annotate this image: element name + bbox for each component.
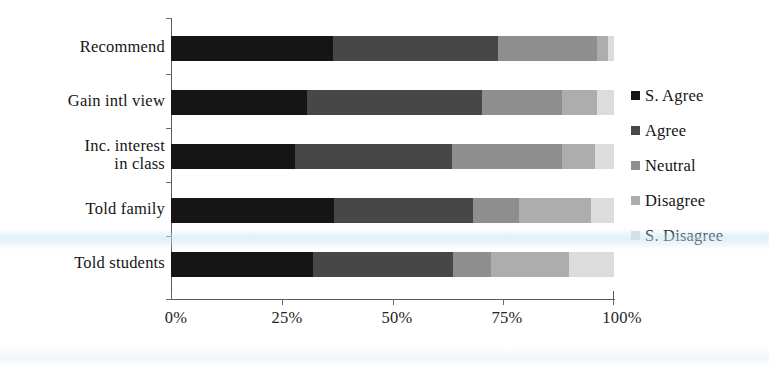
legend-label: S. Disagree xyxy=(645,226,723,246)
x-tick-label-100: 100% xyxy=(602,308,641,328)
legend-label: Agree xyxy=(645,121,686,141)
bar-segment xyxy=(473,198,520,223)
bar-segment xyxy=(569,252,614,277)
x-tick-label-0: 0% xyxy=(165,308,187,328)
legend-swatch-icon xyxy=(631,196,640,205)
x-tick-label-25: 25% xyxy=(272,308,303,328)
legend-item-neutral: Neutral xyxy=(631,148,723,183)
legend-item-agree: Agree xyxy=(631,113,723,148)
bar-told-family xyxy=(171,198,614,223)
category-label-gain-intl-view: Gain intl view xyxy=(68,92,165,110)
bar-segment xyxy=(491,252,569,277)
legend-swatch-icon xyxy=(631,126,640,135)
stacked-bar-chart: Recommend Gain intl view Inc. interest i… xyxy=(0,0,769,367)
bar-segment xyxy=(498,36,597,61)
bar-segment xyxy=(519,198,591,223)
bar-told-students xyxy=(171,252,614,277)
bar-segment xyxy=(171,144,295,169)
bar-segment xyxy=(307,90,482,115)
y-axis-tick xyxy=(166,236,172,237)
x-axis-tick xyxy=(393,299,394,305)
bar-recommend xyxy=(171,36,614,61)
legend-label: S. Agree xyxy=(645,86,703,106)
category-label-inc-interest: Inc. interest in class xyxy=(85,137,165,174)
bar-segment xyxy=(452,144,562,169)
bar-segment xyxy=(171,198,334,223)
bar-segment xyxy=(171,252,313,277)
x-axis-tick xyxy=(171,292,172,300)
y-axis-tick xyxy=(166,18,172,19)
bar-segment xyxy=(313,252,453,277)
bar-segment xyxy=(453,252,491,277)
x-axis-tick xyxy=(613,299,614,305)
bar-segment xyxy=(562,144,595,169)
bar-inc-interest xyxy=(171,144,614,169)
y-axis-tick xyxy=(166,182,172,183)
bar-segment xyxy=(595,144,614,169)
bar-segment xyxy=(171,36,333,61)
category-label-recommend: Recommend xyxy=(80,38,165,56)
legend-item-s-disagree: S. Disagree xyxy=(631,218,723,253)
bar-segment xyxy=(562,90,597,115)
category-label-told-students: Told students xyxy=(74,254,165,272)
bar-segment xyxy=(608,36,614,61)
legend-label: Neutral xyxy=(645,156,696,176)
category-label-told-family: Told family xyxy=(86,200,165,218)
bar-segment xyxy=(482,90,561,115)
bar-segment xyxy=(597,36,608,61)
legend-item-disagree: Disagree xyxy=(631,183,723,218)
bar-segment xyxy=(171,90,307,115)
y-axis-tick xyxy=(166,74,172,75)
legend: S. Agree Agree Neutral Disagree S. Disag… xyxy=(631,78,723,253)
legend-label: Disagree xyxy=(645,191,705,211)
bar-gain-intl-view xyxy=(171,90,614,115)
scan-artifact-band xyxy=(0,345,769,367)
x-axis-tick xyxy=(503,299,504,305)
bar-segment xyxy=(295,144,452,169)
bar-segment xyxy=(597,90,614,115)
y-axis-tick xyxy=(166,128,172,129)
bar-segment xyxy=(333,36,498,61)
bar-segment xyxy=(591,198,614,223)
legend-swatch-icon xyxy=(631,161,640,170)
legend-swatch-icon xyxy=(631,231,640,240)
legend-item-s-agree: S. Agree xyxy=(631,78,723,113)
x-axis-tick xyxy=(282,299,283,305)
bar-segment xyxy=(334,198,472,223)
legend-swatch-icon xyxy=(631,91,640,100)
x-tick-label-75: 75% xyxy=(492,308,523,328)
x-tick-label-50: 50% xyxy=(382,308,413,328)
